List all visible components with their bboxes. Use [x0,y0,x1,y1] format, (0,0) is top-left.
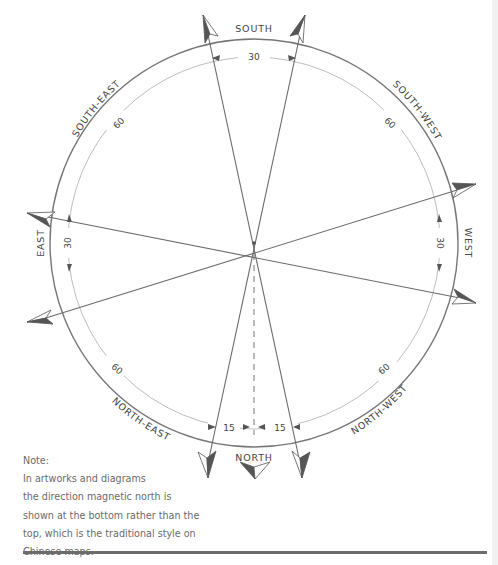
label-east: EAST [35,229,46,257]
note-line: top, which is the traditional style on [23,525,223,543]
angle-west: 30 [435,237,445,249]
angle-north-left: 15 [223,423,234,433]
note-line: In artworks and diagrams [23,470,223,488]
arrowheads [27,15,476,479]
label-north-west: NORTH-WEST [349,382,409,436]
angle-south: 30 [248,52,260,62]
note-heading: Note: [23,452,223,470]
line-ese-wnw [33,214,470,300]
center-point [252,241,256,245]
label-west: WEST [463,228,474,258]
arrow-south-right-icon [290,15,305,43]
arrow-north-right-icon [292,451,310,478]
arrow-west-lower-icon [452,289,476,304]
label-south: SOUTH [235,23,272,34]
bottom-rule-divider [23,551,487,554]
line-ene-wsw [33,186,470,322]
angle-east: 30 [63,237,73,249]
note-block: Note: In artworks and diagrams the direc… [23,452,223,561]
label-north: NORTH [235,452,272,463]
note-line: the direction magnetic north is [23,488,223,506]
label-north-east: NORTH-EAST [110,395,172,443]
page-edge-shadow [492,0,498,565]
note-line: shown at the bottom rather than the [23,507,223,525]
north-arrow-icon [240,462,270,479]
angle-north-right: 15 [274,423,285,433]
arrow-south-left-icon [203,15,218,43]
